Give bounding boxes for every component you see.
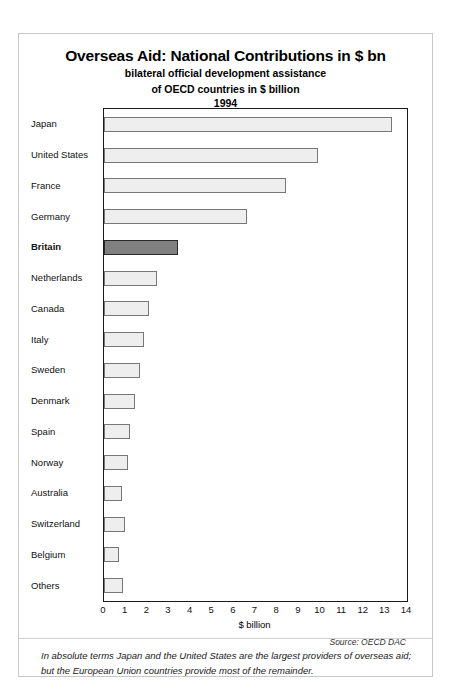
x-tick-12: 12 <box>357 604 368 615</box>
chart-card: Overseas Aid: National Contributions in … <box>18 33 433 677</box>
x-axis: $ billion Source: OECD DAC 0123456789101… <box>103 604 406 648</box>
bar-britain <box>104 240 178 255</box>
bar-others <box>104 578 123 593</box>
bar-spain <box>104 424 130 439</box>
bar-france <box>104 178 286 193</box>
x-tick-2: 2 <box>144 604 149 615</box>
footnote-text: In absolute terms Japan and the United S… <box>41 649 414 678</box>
bar-japan <box>104 117 392 132</box>
category-label-australia: Australia <box>19 487 96 498</box>
category-label-britain: Britain <box>19 241 96 252</box>
x-tick-8: 8 <box>273 604 278 615</box>
bar-netherlands <box>104 271 157 286</box>
x-tick-11: 11 <box>336 604 346 615</box>
footer-divider <box>19 638 432 639</box>
chart-title: Overseas Aid: National Contributions in … <box>19 46 432 65</box>
x-tick-1: 1 <box>122 604 127 615</box>
x-axis-title: $ billion <box>103 619 406 630</box>
x-tick-6: 6 <box>230 604 235 615</box>
category-label-united-states: United States <box>19 149 96 160</box>
x-tick-7: 7 <box>252 604 257 615</box>
bar-denmark <box>104 394 135 409</box>
category-label-germany: Germany <box>19 210 96 221</box>
x-tick-13: 13 <box>379 604 390 615</box>
bar-germany <box>104 209 247 224</box>
x-tick-0: 0 <box>100 604 105 615</box>
x-tick-14: 14 <box>401 604 412 615</box>
x-tick-5: 5 <box>209 604 214 615</box>
plot-area: JapanUnited StatesFranceGermanyBritainNe… <box>19 108 432 638</box>
category-label-norway: Norway <box>19 456 96 467</box>
chart-header: Overseas Aid: National Contributions in … <box>19 34 432 111</box>
bar-switzerland <box>104 517 125 532</box>
category-label-netherlands: Netherlands <box>19 272 96 283</box>
chart-subtitle-line1: bilateral official development assistanc… <box>19 67 432 81</box>
bar-norway <box>104 455 128 470</box>
category-label-spain: Spain <box>19 425 96 436</box>
bar-united-states <box>104 148 318 163</box>
category-label-belgium: Belgium <box>19 548 96 559</box>
category-label-denmark: Denmark <box>19 395 96 406</box>
plot-frame <box>103 108 408 602</box>
category-label-italy: Italy <box>19 333 96 344</box>
x-tick-4: 4 <box>187 604 192 615</box>
bar-belgium <box>104 547 119 562</box>
bar-sweden <box>104 363 140 378</box>
bar-australia <box>104 486 122 501</box>
x-tick-10: 10 <box>314 604 325 615</box>
bar-italy <box>104 332 144 347</box>
bar-canada <box>104 301 149 316</box>
category-label-japan: Japan <box>19 118 96 129</box>
category-label-canada: Canada <box>19 302 96 313</box>
category-label-france: France <box>19 179 96 190</box>
category-axis-labels: JapanUnited StatesFranceGermanyBritainNe… <box>19 108 103 600</box>
x-tick-9: 9 <box>295 604 300 615</box>
x-tick-3: 3 <box>165 604 170 615</box>
category-label-sweden: Sweden <box>19 364 96 375</box>
category-label-switzerland: Switzerland <box>19 518 96 529</box>
chart-subtitle-line2: of OECD countries in $ billion <box>19 83 432 97</box>
category-label-others: Others <box>19 579 96 590</box>
